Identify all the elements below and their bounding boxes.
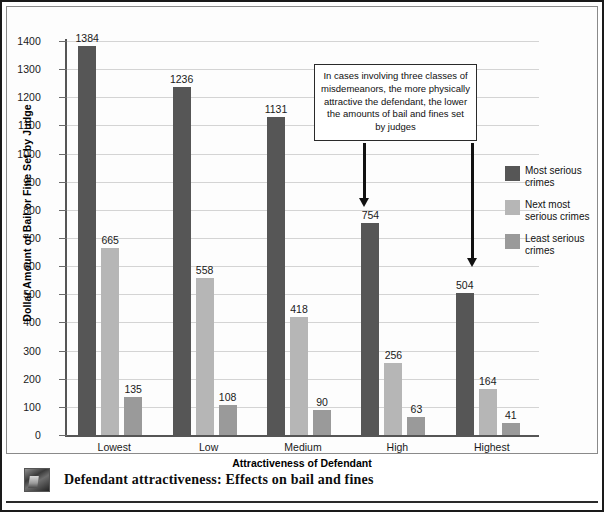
bar-value-label: 1131 — [256, 103, 296, 115]
bar — [313, 410, 331, 435]
legend-item: Least serious crimes — [505, 233, 597, 256]
y-tick-mark — [59, 379, 67, 380]
bar-value-label: 1384 — [67, 32, 107, 44]
bar-value-label: 63 — [396, 403, 436, 415]
bar — [173, 87, 191, 435]
bar — [456, 293, 474, 435]
bottom-rule — [6, 501, 598, 503]
photo-thumbnail-icon — [24, 468, 50, 492]
figure-caption: Defendant attractiveness: Effects on bai… — [64, 472, 374, 488]
bar-value-label: 135 — [113, 383, 153, 395]
caption-row: Defendant attractiveness: Effects on bai… — [6, 464, 598, 496]
y-tick-label: 0 — [0, 429, 41, 441]
bar-value-label: 41 — [491, 409, 531, 421]
bar — [361, 223, 379, 435]
bar — [384, 363, 402, 435]
y-tick-mark — [59, 266, 67, 267]
y-axis-title: Dollar Amount of Bail or Fine Set by Jud… — [21, 13, 33, 413]
x-tick-label: High — [352, 441, 442, 453]
bar — [290, 317, 308, 435]
x-axis-line — [65, 435, 539, 437]
x-tick-label: Medium — [258, 441, 348, 453]
x-tick-label: Low — [164, 441, 254, 453]
figure-outer-frame: 0100200300400500600700800900100011001200… — [0, 0, 604, 512]
bar — [502, 423, 520, 435]
y-tick-mark — [59, 435, 67, 436]
legend-swatch — [505, 166, 520, 181]
bar-value-label: 754 — [350, 209, 390, 221]
y-tick-mark — [59, 210, 67, 211]
annotation-callout: In cases involving three classes of misd… — [314, 64, 477, 141]
y-tick-mark — [59, 294, 67, 295]
y-tick-mark — [59, 351, 67, 352]
bar-value-label: 108 — [208, 391, 248, 403]
legend: Most serious crimesNext most serious cri… — [505, 165, 597, 267]
chart-panel: 0100200300400500600700800900100011001200… — [6, 6, 598, 454]
y-tick-mark — [59, 182, 67, 183]
bar-value-label: 90 — [302, 396, 342, 408]
legend-item: Next most serious crimes — [505, 199, 597, 222]
bar-value-label: 665 — [90, 234, 130, 246]
y-tick-mark — [59, 125, 67, 126]
bar — [267, 117, 285, 435]
y-tick-mark — [59, 238, 67, 239]
x-tick-label: Lowest — [69, 441, 159, 453]
bar-value-label: 164 — [468, 375, 508, 387]
legend-label: Next most serious crimes — [525, 199, 597, 222]
bar — [196, 278, 214, 435]
bar-value-label: 256 — [373, 349, 413, 361]
bar-value-label: 418 — [279, 303, 319, 315]
gridline — [67, 41, 539, 42]
bar — [101, 248, 119, 435]
bar-value-label: 504 — [445, 279, 485, 291]
annotation-arrow-highest — [467, 143, 478, 267]
legend-label: Least serious crimes — [525, 233, 597, 256]
legend-item: Most serious crimes — [505, 165, 597, 188]
bar-value-label: 1236 — [162, 73, 202, 85]
y-tick-mark — [59, 407, 67, 408]
legend-swatch — [505, 200, 520, 215]
bar — [219, 405, 237, 435]
y-tick-mark — [59, 97, 67, 98]
bar-value-label: 558 — [185, 264, 225, 276]
bar — [407, 417, 425, 435]
x-tick-label: Highest — [447, 441, 537, 453]
y-tick-mark — [59, 41, 67, 42]
y-tick-mark — [59, 154, 67, 155]
legend-label: Most serious crimes — [525, 165, 597, 188]
annotation-arrow-high — [359, 143, 370, 207]
bar — [124, 397, 142, 435]
y-tick-mark — [59, 69, 67, 70]
legend-swatch — [505, 234, 520, 249]
y-tick-mark — [59, 322, 67, 323]
